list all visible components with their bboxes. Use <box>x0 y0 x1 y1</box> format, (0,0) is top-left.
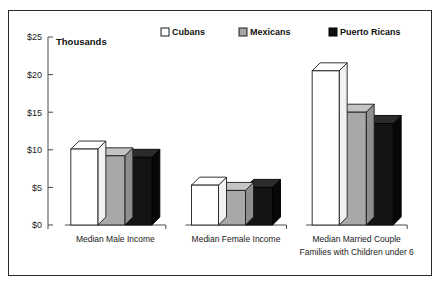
bar-series-group <box>71 63 401 225</box>
bar-side-face <box>393 115 401 225</box>
legend-item[interactable]: Cubans <box>161 27 205 37</box>
bar-front-face <box>192 185 219 225</box>
bar-cubans <box>312 63 347 225</box>
y-axis-tick-label: $5 <box>32 183 42 193</box>
legend-swatch-mexicans <box>239 28 247 36</box>
category-label: Median Female Income <box>192 234 281 244</box>
bar-front-face <box>71 149 98 225</box>
x-axis-category-labels: Median Male IncomeMedian Female IncomeMe… <box>76 234 414 257</box>
bar-cubans <box>192 177 227 225</box>
chart-frame: $0$5$10$15$20$25 Thousands Median Male I… <box>8 10 432 276</box>
bar-side-face <box>366 104 374 225</box>
legend-item[interactable]: Puerto Ricans <box>329 27 401 37</box>
bar-side-face <box>98 141 106 225</box>
bar-chart: $0$5$10$15$20$25 Thousands Median Male I… <box>9 11 431 275</box>
y-axis-tick-label: $25 <box>27 32 42 42</box>
legend-swatch-cubans <box>161 28 169 36</box>
legend-label: Cubans <box>172 27 205 37</box>
bar-cubans <box>71 141 106 225</box>
chart-legend: CubansMexicansPuerto Ricans <box>161 27 401 37</box>
y-axis-tick-label: $0 <box>32 220 42 230</box>
y-axis <box>48 37 53 225</box>
y-axis-tick-label: $10 <box>27 145 42 155</box>
y-axis-title: Thousands <box>56 36 107 47</box>
category-sublabel: Families with Children under 6 <box>300 247 415 257</box>
bar-side-face <box>339 63 347 225</box>
bar-side-face <box>152 149 160 225</box>
y-axis-tick-label: $20 <box>27 70 42 80</box>
bar-side-face <box>125 148 133 225</box>
y-axis-tick-label: $15 <box>27 108 42 118</box>
category-label: Median Male Income <box>76 234 155 244</box>
legend-item[interactable]: Mexicans <box>239 27 291 37</box>
x-axis-baseline <box>48 225 407 229</box>
bar-front-face <box>312 71 339 225</box>
legend-label: Mexicans <box>250 27 291 37</box>
category-label: Median Married Couple <box>312 234 401 244</box>
legend-label: Puerto Ricans <box>340 27 401 37</box>
legend-swatch-puerto-ricans <box>329 28 337 36</box>
y-axis-tick-labels: $0$5$10$15$20$25 <box>27 32 42 230</box>
